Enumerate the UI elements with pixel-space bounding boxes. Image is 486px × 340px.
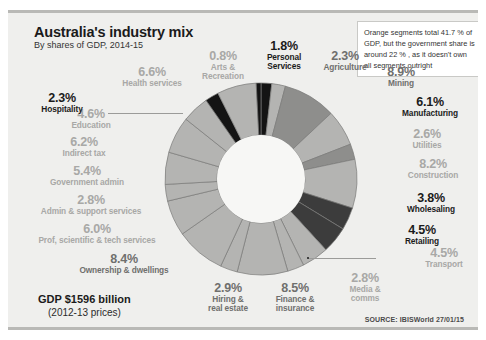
label-mining: 8.9% Mining: [372, 65, 430, 88]
label-prof-scientific-tech: 6.0% Prof, scientific & tech services: [22, 222, 172, 245]
leader-dot-retailing: [307, 257, 309, 259]
donut-hole: [217, 135, 305, 223]
label-construction: 8.2% Construction: [394, 157, 472, 180]
label-admin-support: 2.8% Admin & support services: [20, 193, 162, 216]
label-retailing: 4.5% Retailing: [389, 223, 455, 246]
label-government-admin: 5.4% Government admin: [30, 164, 144, 187]
label-agriculture: 2.3% Agriculture: [311, 49, 379, 72]
source-credit: SOURCE: IBISWorld 27/01/15: [365, 316, 464, 323]
donut-chart-svg: [161, 79, 361, 279]
infographic-card: Australia's industry mix By shares of GD…: [8, 10, 478, 330]
label-utilities: 2.6% Utilities: [393, 127, 461, 150]
label-finance-insurance: 8.5% Finance & insurance: [261, 281, 329, 313]
label-hiring-real-estate: 2.9% Hiring & real estate: [194, 281, 262, 313]
label-transport: 4.5% Transport: [412, 246, 476, 269]
donut-chart: [161, 79, 361, 279]
page-title: Australia's industry mix: [34, 24, 193, 40]
label-hospitality: 2.3% Hospitality: [20, 91, 104, 114]
label-indirect-tax: 6.2% Indirect tax: [40, 135, 128, 158]
page-subtitle: By shares of GDP, 2014-15: [34, 40, 143, 50]
label-media-comms: 2.8% Media & comms: [335, 271, 395, 303]
leader-line-transport: [308, 258, 376, 259]
label-manufacturing: 6.1% Manufacturing: [387, 95, 473, 118]
label-health-services: 6.6% Health services: [100, 65, 204, 88]
label-personal-services: 1.8% Personal Services: [251, 39, 317, 71]
label-ownership-dwellings: 8.4% Ownership & dwellings: [59, 252, 189, 275]
gdp-total: GDP $1596 billion: [38, 293, 131, 305]
label-wholesaling: 3.8% Wholesaling: [393, 191, 469, 214]
gdp-basis: (2012-13 prices): [48, 307, 121, 318]
